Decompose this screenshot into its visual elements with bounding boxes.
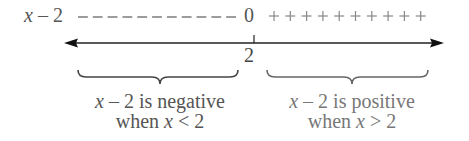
negative-caption: x – 2 is negative when x < 2 <box>60 91 260 131</box>
zero-label: 0 <box>244 4 254 27</box>
plus-sign <box>334 11 344 21</box>
positive-caption-line1: x – 2 is positive <box>252 91 452 111</box>
positive-signs <box>269 11 426 21</box>
sign-chart-diagram: x – 2 0 2 x – 2 is negative when x < 2 x… <box>0 0 469 141</box>
left-brace <box>78 70 238 84</box>
plus-sign <box>367 11 377 21</box>
negative-caption-line1: x – 2 is negative <box>60 91 260 111</box>
plus-sign <box>302 11 312 21</box>
negative-caption-line2: when x < 2 <box>60 111 260 131</box>
plus-sign <box>383 11 393 21</box>
plus-sign <box>318 11 328 21</box>
plus-sign <box>399 11 409 21</box>
positive-caption-line2: when x > 2 <box>252 111 452 131</box>
plus-sign <box>269 11 279 21</box>
right-brace <box>267 70 428 84</box>
left-arrow-icon <box>64 39 78 48</box>
positive-caption: x – 2 is positive when x > 2 <box>252 91 452 131</box>
right-arrow-icon <box>430 39 444 48</box>
plus-sign <box>416 11 426 21</box>
tick-label: 2 <box>244 44 254 67</box>
plus-sign <box>351 11 361 21</box>
plus-sign <box>285 11 295 21</box>
